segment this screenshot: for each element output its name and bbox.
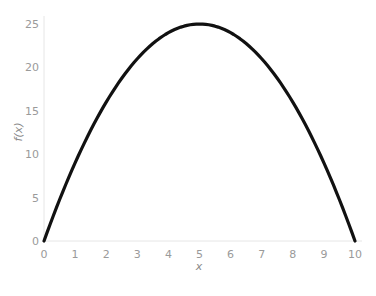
x-tick-label: 9 — [320, 248, 327, 261]
x-tick-label: 0 — [41, 248, 48, 261]
y-tick-labels: 0510152025 — [25, 18, 39, 248]
x-axis-label: x — [195, 260, 203, 273]
y-tick-label: 25 — [25, 18, 39, 31]
x-tick-label: 8 — [289, 248, 296, 261]
x-tick-label: 7 — [258, 248, 265, 261]
x-tick-label: 3 — [134, 248, 141, 261]
x-tick-label: 6 — [227, 248, 234, 261]
y-tick-label: 10 — [25, 148, 39, 161]
y-tick-label: 20 — [25, 61, 39, 74]
y-tick-label: 0 — [32, 235, 39, 248]
x-tick-label: 4 — [165, 248, 172, 261]
chart: 0510152025 012345678910 x f(x) — [0, 0, 376, 296]
y-tick-label: 5 — [32, 192, 39, 205]
function-curve — [44, 24, 355, 241]
x-tick-label: 10 — [348, 248, 362, 261]
x-tick-label: 2 — [103, 248, 110, 261]
y-tick-label: 15 — [25, 105, 39, 118]
x-tick-label: 1 — [72, 248, 79, 261]
y-axis-label: f(x) — [12, 123, 25, 142]
